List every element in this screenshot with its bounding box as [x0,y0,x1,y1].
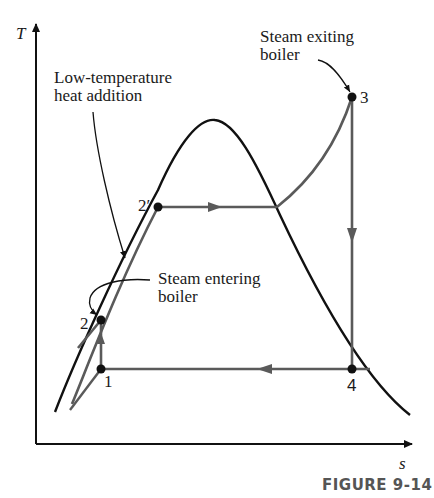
leader-steam-exiting [318,60,350,92]
figure-caption: FIGURE 9-14 [322,476,432,494]
state-point-2 [97,316,106,325]
annotation-low-temp-line2: heat addition [54,87,172,105]
annotation-steam-exiting: Steam exiting boiler [260,28,354,64]
liquid-heating-line [72,207,158,404]
x-axis-label: s [399,454,406,474]
y-axis-label: T [16,24,25,44]
state-point-4 [348,365,357,374]
arrow-4-1 [257,364,272,374]
arrow-evaporation [208,202,222,212]
saturation-dome [55,120,410,415]
label-point-1: 1 [104,372,113,392]
isobar-lower [70,369,101,410]
label-point-2prime: 2′ [138,196,150,216]
annotation-steam-exiting-line1: Steam exiting [260,28,354,46]
arrow-3-4 [347,228,357,243]
annotation-steam-entering-line2: boiler [158,288,260,306]
label-point-4: 4 [347,376,356,396]
leader-low-temp [93,112,125,258]
annotation-low-temp: Low-temperature heat addition [54,69,172,105]
state-point-2prime [154,203,163,212]
annotation-steam-entering-line1: Steam entering [158,270,260,288]
process-superheat [277,97,352,207]
state-point-3 [348,93,357,102]
label-point-2: 2 [80,314,89,334]
annotation-steam-exiting-line2: boiler [260,46,354,64]
label-point-3: 3 [360,88,369,108]
annotation-steam-entering: Steam entering boiler [158,270,260,306]
annotation-low-temp-line1: Low-temperature [54,69,172,87]
